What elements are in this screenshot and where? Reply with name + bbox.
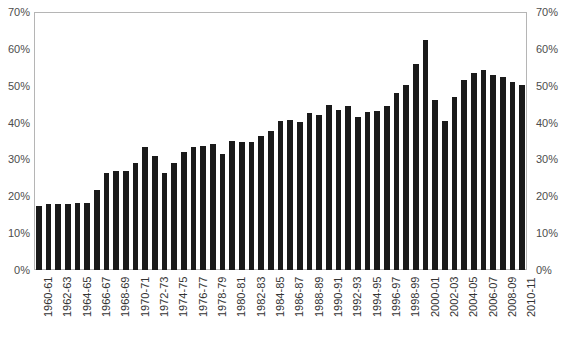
bar: [510, 82, 516, 270]
y-axis-tick-label-right: 60%: [536, 44, 558, 55]
bar: [432, 100, 438, 270]
bar: [84, 203, 90, 270]
bar: [336, 110, 342, 270]
bar: [394, 93, 400, 270]
bar: [133, 163, 139, 270]
bar: [355, 117, 361, 270]
bar-chart: 0%10%20%30%40%50%60%70% 0%10%20%30%40%50…: [0, 0, 564, 342]
bar: [316, 115, 322, 270]
x-axis-tick-label: 1990-91: [333, 277, 344, 317]
y-axis-tick-label-right: 50%: [536, 81, 558, 92]
x-axis-tick-label: 1994-95: [372, 277, 383, 317]
bar: [171, 163, 177, 270]
x-axis-tick-label: 2002-03: [449, 277, 460, 317]
y-axis-tick-label-left: 60%: [8, 44, 30, 55]
bar: [75, 203, 81, 270]
x-axis-tick-label: 1986-87: [294, 277, 305, 317]
x-axis-tick-label: 1968-69: [120, 277, 131, 317]
bar: [152, 156, 158, 270]
y-axis-tick-label-left: 10%: [8, 228, 30, 239]
bars-layer: [34, 12, 527, 270]
bar: [423, 40, 429, 270]
x-axis-tick-label: 1964-65: [82, 277, 93, 317]
x-axis-tick-label: 1996-97: [391, 277, 402, 317]
bar: [65, 204, 71, 270]
y-axis-tick-label-right: 30%: [536, 154, 558, 165]
x-axis-tick-label: 1960-61: [43, 277, 54, 317]
y-axis-tick-label-right: 20%: [536, 191, 558, 202]
bar: [200, 146, 206, 270]
bar: [490, 75, 496, 270]
bar: [519, 85, 525, 270]
bar: [403, 85, 409, 270]
x-axis-tick-label: 2008-09: [507, 277, 518, 317]
y-axis-tick-label-right: 70%: [536, 7, 558, 18]
bar: [123, 171, 129, 270]
x-axis-tick-label: 2006-07: [488, 277, 499, 317]
y-axis-tick-label-right: 10%: [536, 228, 558, 239]
bar: [210, 144, 216, 270]
bar: [46, 204, 52, 270]
bar: [442, 121, 448, 270]
bar: [113, 171, 119, 271]
bar: [500, 77, 506, 271]
y-axis-tick-label-left: 50%: [8, 81, 30, 92]
x-axis-tick-label: 2010-11: [526, 277, 537, 317]
y-axis-tick-label-left: 30%: [8, 154, 30, 165]
bar: [384, 106, 390, 270]
x-axis-tick-label: 1988-89: [314, 277, 325, 317]
x-axis-tick-label: 1984-85: [275, 277, 286, 317]
bar: [297, 122, 303, 270]
bar: [36, 206, 42, 271]
bar: [181, 152, 187, 270]
x-axis-tick-label: 1980-81: [236, 277, 247, 317]
y-axis-tick-label-left: 20%: [8, 191, 30, 202]
bar: [229, 141, 235, 270]
x-axis-tick-label: 1992-93: [352, 277, 363, 317]
bar: [481, 70, 487, 271]
bar: [278, 121, 284, 270]
x-axis-tick-label: 1982-83: [256, 277, 267, 317]
bar: [365, 112, 371, 270]
y-axis-tick-label-right: 0%: [536, 265, 552, 276]
bar: [268, 131, 274, 270]
y-axis-tick-label-right: 40%: [536, 118, 558, 129]
bar: [374, 111, 380, 270]
bar: [307, 113, 313, 270]
x-axis-tick-label: 1972-73: [159, 277, 170, 317]
bar: [142, 147, 148, 270]
bar: [471, 73, 477, 270]
bar: [345, 106, 351, 270]
bar: [94, 190, 100, 270]
x-axis-tick-label: 1978-79: [217, 277, 228, 317]
bar: [249, 142, 255, 270]
y-axis-tick-label-left: 40%: [8, 118, 30, 129]
bar: [191, 147, 197, 270]
x-axis-tick-label: 2000-01: [430, 277, 441, 317]
bar: [258, 136, 264, 270]
bar: [461, 80, 467, 270]
x-axis-tick-label: 1998-99: [410, 277, 421, 317]
bar: [104, 173, 110, 270]
bar: [239, 142, 245, 270]
x-axis-tick-label: 1966-67: [101, 277, 112, 317]
y-axis-tick-label-left: 70%: [8, 7, 30, 18]
bar: [287, 120, 293, 270]
x-axis-tick-label: 1974-75: [178, 277, 189, 317]
x-axis-tick-label: 1976-77: [198, 277, 209, 317]
bar: [326, 105, 332, 270]
bar: [413, 64, 419, 270]
x-axis-tick-label: 2004-05: [468, 277, 479, 317]
y-axis-tick-label-left: 0%: [14, 265, 30, 276]
bar: [452, 97, 458, 270]
bar: [162, 173, 168, 270]
x-axis-tick-label: 1970-71: [140, 277, 151, 317]
bar: [55, 204, 61, 270]
bar: [220, 154, 226, 270]
x-axis-tick-label: 1962-63: [62, 277, 73, 317]
